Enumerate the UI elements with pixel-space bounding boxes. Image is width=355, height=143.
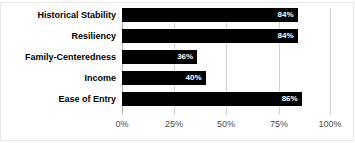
x-tick-label-50: 50% (217, 118, 235, 130)
bar-value-label: 36% (177, 50, 193, 64)
x-tick-label-75: 75% (270, 118, 288, 130)
category-label-ease-of-entry: Ease of Entry (0, 92, 116, 106)
bar-row: 86% (122, 92, 331, 106)
bar-value-label: 40% (186, 71, 202, 85)
category-label-family-centeredness: Family-Centeredness (0, 50, 116, 64)
category-axis-labels: Historical Stability Resiliency Family-C… (0, 8, 116, 115)
plot-area: 84% 84% 36% 40% 86% (122, 8, 331, 115)
bar-row: 84% (122, 29, 331, 43)
category-label-income: Income (0, 71, 116, 85)
bar-ease-of-entry: 86% (122, 92, 302, 106)
bar-value-label: 86% (282, 92, 298, 106)
category-label-resiliency: Resiliency (0, 29, 116, 43)
bar-resiliency: 84% (122, 29, 298, 43)
x-tick-label-25: 25% (165, 118, 183, 130)
bar-value-label: 84% (278, 8, 294, 22)
category-label-historical-stability: Historical Stability (0, 8, 116, 22)
x-tick-label-100: 100% (318, 118, 341, 130)
x-axis-tick-labels: 0% 25% 50% 75% 100% (122, 118, 331, 132)
bar-row: 40% (122, 71, 331, 85)
bar-row: 84% (122, 8, 331, 22)
bar-value-label: 84% (278, 29, 294, 43)
bar-income: 40% (122, 71, 206, 85)
bar-historical-stability: 84% (122, 8, 298, 22)
x-tick-label-0: 0% (115, 118, 128, 130)
bar-row: 36% (122, 50, 331, 64)
bar-series: 84% 84% 36% 40% 86% (122, 8, 331, 115)
bar-chart: Historical Stability Resiliency Family-C… (0, 0, 355, 143)
bar-family-centeredness: 36% (122, 50, 197, 64)
